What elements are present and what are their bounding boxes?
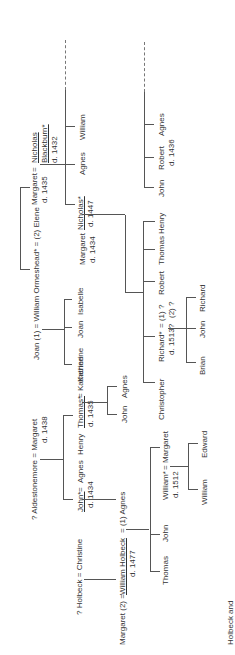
person-john: John [157,180,166,197]
connector [65,126,75,127]
connector [40,164,65,165]
person-john-3: John [120,406,129,423]
connector [65,204,75,205]
connector [186,362,196,363]
connector [143,281,155,282]
thomas-spouse: = Katherine [76,357,85,398]
person-thomas-2: Thomas [161,556,170,585]
person-william-holbeck: William Holbeck [118,538,127,595]
date: d. 1434 [86,481,95,508]
aldestonemore-marriage-line: ? Aldestonemore = Margaret [30,419,39,520]
connector [65,164,75,165]
person-margaret: Margaret [78,233,87,265]
person-joan: Joan [76,321,85,338]
connector [150,534,160,535]
person-robert-2: Robert [157,271,166,295]
connector [143,249,155,250]
person-nicholas-blackburn: Nicholas [30,132,39,163]
date: d. 1436 [167,139,176,166]
person-robert: Robert [157,146,166,170]
connector [64,364,72,365]
connector [107,414,117,415]
connector [20,269,30,270]
marriage-sign: = [76,487,85,492]
date: d. 1435 [40,176,49,203]
connector [144,187,154,188]
richard-spouse-1: = (1) ? [157,305,166,328]
ormeshead-marriage-line: Joan (1) = William Ormeshead* = (2) Elen… [32,207,41,360]
dashed-continuation [65,40,66,90]
person-richard: Richard* [157,331,166,362]
marriage-sign: = [30,167,39,172]
date: d. 1477 [128,550,137,577]
connector [170,466,188,467]
connector [84,579,116,580]
person-henry: Henry [157,213,166,234]
sibling-bar [150,448,151,572]
person-agnes-2: Agnes [157,113,166,136]
connector [188,443,198,444]
person-william-star: William* [161,471,170,500]
family-tree-diagram: Margaret d. 1435 = Nicholas Blackburn* d… [0,0,235,655]
person-richard-2: Richard [198,284,207,312]
person-edward: Edward [200,431,209,458]
person-agnes: Agnes [78,152,87,175]
holbeck-parents: ? Holbeck = Christine [75,539,84,615]
holbeck-marriage-2: = (1) Agnes [118,492,127,533]
connector [144,157,154,158]
connector [42,329,64,330]
date: d. 1512 [171,471,180,498]
person-john-star: John* [76,492,85,512]
connector [64,327,72,328]
richard-spouse-2: (2) ? [167,302,176,318]
connector [150,447,160,448]
person-john-2: John [198,321,207,338]
date: d. 1438 [40,416,49,443]
person-thomas-star: Thomas* [76,396,85,428]
connector [143,336,155,337]
date: d. 1434 [88,236,97,263]
person-margaret-blackburn: Margaret [30,173,39,205]
person-william-2: William [200,479,209,505]
person-isabelle: Isabelle [76,287,85,315]
person-agnes-3: Agnes [76,460,85,483]
connector [82,214,125,215]
sibling-bar [188,444,189,490]
sibling-bar [64,300,65,365]
bracket [20,188,21,270]
connector [186,328,196,329]
date: d. 1432 [50,136,59,163]
sibling-bar [107,387,108,415]
connector [63,499,73,500]
connector [64,299,72,300]
connector [186,297,196,298]
person-agnes-4: Agnes [120,375,129,398]
william-spouse: = Margaret [161,431,170,470]
connector [82,402,107,403]
sibling-bar [63,416,64,500]
sibling-bar [144,92,145,188]
person-john-4: John [161,525,170,542]
connector [143,221,155,222]
person-henry-2: Henry [76,434,85,455]
sibling-bar [186,298,187,363]
connector [168,328,186,329]
connector [126,529,149,530]
connector [125,292,143,293]
person-thomas: Thomas [157,236,166,265]
connector [150,571,160,572]
dashed-continuation [144,42,145,92]
connector [63,415,73,416]
holbeck-marriage-1: Margaret (2) = [118,594,127,645]
connector [20,187,30,188]
person-william: William [78,114,87,140]
connector [125,215,126,293]
connector [144,124,154,125]
date: d. 1435 [86,400,95,427]
connector [188,489,198,490]
person-nicholas-blackburn-surname: Blackburn* [40,124,49,163]
connector [40,459,63,460]
sibling-bar [65,90,66,205]
connector [107,386,117,387]
person-christopher: Christopher [157,379,166,420]
